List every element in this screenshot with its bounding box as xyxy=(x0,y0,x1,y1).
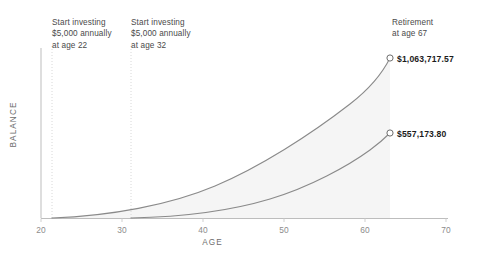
x-tick-label-20: 20 xyxy=(28,225,54,235)
x-tick-label-70: 70 xyxy=(433,225,459,235)
y-axis-title: BALANCE xyxy=(9,90,18,160)
x-tick-label-50: 50 xyxy=(271,225,297,235)
annotation-start-age-32: Start investing $5,000 annually at age 3… xyxy=(131,17,209,51)
retirement-marker-lower xyxy=(387,130,393,136)
investment-growth-chart: Start investing $5,000 annually at age 2… xyxy=(0,0,479,264)
x-axis-title: AGE xyxy=(0,238,425,247)
x-tick-label-30: 30 xyxy=(109,225,135,235)
x-axis-ticks xyxy=(41,219,446,223)
annotation-start-age-22: Start investing $5,000 annually at age 2… xyxy=(52,17,130,51)
x-tick-label-40: 40 xyxy=(190,225,216,235)
retirement-marker-upper xyxy=(387,55,393,61)
x-tick-label-60: 60 xyxy=(352,225,378,235)
value-label-lower: $557,173.80 xyxy=(397,129,446,139)
annotation-retirement: Retirement at age 67 xyxy=(392,17,474,40)
area-fill-upper-curve xyxy=(52,58,390,218)
value-label-upper: $1,063,717.57 xyxy=(397,54,454,64)
